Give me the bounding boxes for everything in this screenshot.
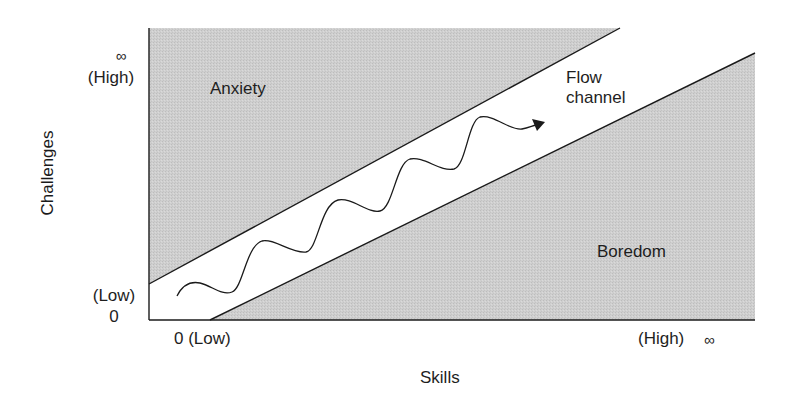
x-axis-right-infinity: ∞	[704, 330, 715, 350]
y-axis-low-label: (Low)	[84, 286, 144, 306]
flow-label-line1: Flow	[566, 68, 602, 88]
x-axis-low-label: 0 (Low)	[174, 329, 231, 349]
y-axis-high-label: (High)	[78, 68, 144, 88]
boredom-label: Boredom	[597, 242, 666, 262]
y-axis-title: Challenges	[38, 130, 58, 215]
y-axis-top-infinity: ∞	[104, 46, 138, 66]
y-axis-zero-label: 0	[100, 307, 128, 327]
x-axis-title: Skills	[420, 368, 460, 388]
flow-label-line2: channel	[566, 88, 626, 108]
anxiety-label: Anxiety	[210, 79, 266, 99]
x-axis-high-label: (High)	[638, 329, 684, 349]
